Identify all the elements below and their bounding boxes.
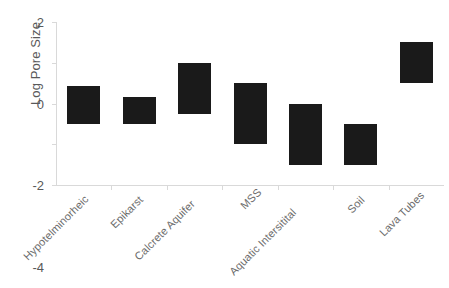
y-tick-mark: 0 [52,63,56,64]
x-category-label-soil: Soil [345,193,367,215]
y-axis-line [56,22,57,185]
x-category-label-epikarst: Epikarst [108,194,145,231]
bar-calcrete-aquifer[interactable] [178,63,211,114]
y-tick-label: 0 [37,96,44,111]
y-tick-mark: -6 [52,185,56,186]
bar-mss[interactable] [234,83,267,144]
y-tick-mark: -4 [52,144,56,145]
x-category-label-aquatic-intersitital: Aquatic Intersitital [227,207,298,278]
bar-lava-tubes[interactable] [400,42,433,83]
x-category-label-hypotelminorheic: Hypotelminorheic [21,193,91,263]
y-tick-label: -2 [32,178,44,193]
bar-soil[interactable] [344,124,377,165]
x-category-label-lava-tubes: Lava Tubes [377,189,426,238]
y-tick-label: 2 [37,15,44,30]
plot-area: 20-2-4-6 [56,22,444,185]
bar-aquatic-intersitital[interactable] [289,104,322,165]
x-axis-line [56,185,444,186]
y-tick-mark: 2 [52,22,56,23]
bar-epikarst[interactable] [123,97,156,123]
log-pore-size-range-chart: Log Pore Size 20-2-4-6 HypotelminorheicE… [0,0,449,288]
x-category-label-mss: MSS [238,186,264,212]
y-tick-mark: -2 [52,104,56,105]
x-category-label-calcrete-aquifer: Calcrete Aquifer [132,197,197,262]
x-axis-category-labels: HypotelminorheicEpikarstCalcrete Aquifer… [56,187,449,288]
y-tick-label: -4 [32,259,44,274]
bar-hypotelminorheic[interactable] [67,86,100,124]
